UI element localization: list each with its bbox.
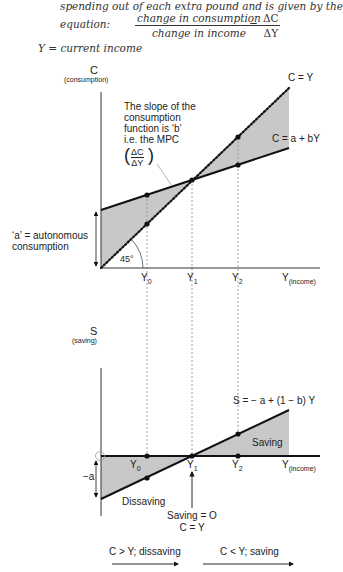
slope-fraction-paren-left: (	[124, 145, 130, 165]
s-axis-sublabel: (saving)	[72, 337, 97, 344]
s-axis-label: S	[90, 325, 97, 337]
slope-note-line: consumption	[124, 112, 196, 123]
point-y0-axis	[144, 453, 149, 458]
saving-function-label: S = − a + (1 − b) Y	[233, 395, 315, 406]
slope-fraction-num: ΔC	[131, 147, 144, 158]
c-axis-label: C	[90, 64, 98, 76]
tick-y2-upper: Y2	[232, 272, 243, 285]
tick-y1-lower: Y1	[187, 459, 198, 472]
y-income-label-lower: Y(income)	[282, 459, 316, 472]
slope-note-pointer	[157, 164, 172, 186]
slope-fraction-den: ΔY	[131, 158, 144, 168]
point-y0-consumption	[144, 192, 149, 197]
c-axis-sublabel: (consumption)	[64, 76, 108, 83]
tick-y0-upper: Y0	[141, 272, 152, 285]
slope-fraction: ΔC ΔY	[131, 147, 144, 168]
dissaving-region-label: Dissaving	[122, 496, 165, 507]
autonomous-label-line: consumption	[12, 241, 88, 252]
minus-a-label: −a	[83, 471, 94, 482]
point-y1-zero-saving	[189, 453, 194, 458]
breakeven-line: C = Y	[160, 522, 224, 534]
point-y2-consumption	[235, 162, 240, 167]
saving-region-label: Saving	[252, 437, 283, 448]
slope-fraction-paren-right: )	[148, 145, 154, 165]
slope-note-line: function is ‘b’	[124, 123, 196, 134]
breakeven-line: Saving = O	[160, 510, 224, 522]
angle-45-label: 45°	[120, 254, 134, 264]
point-y1-breakeven	[189, 177, 194, 182]
consumption-function-label: C = a + bY	[272, 133, 320, 144]
dissaving-direction-label: C > Y; dissaving	[109, 546, 181, 557]
tick-y1-upper: Y1	[187, 272, 198, 285]
slope-note-line: The slope of the	[124, 101, 196, 112]
breakeven-label: Saving = O C = Y	[160, 510, 224, 534]
point-y0-45line	[144, 221, 149, 226]
point-y2-45line	[235, 134, 240, 139]
slope-note: The slope of the consumption function is…	[124, 101, 196, 145]
saving-direction-label: C < Y; saving	[220, 546, 279, 557]
tick-y0-lower: Y0	[130, 459, 141, 472]
point-y2-saving	[235, 431, 240, 436]
line-45-label: C = Y	[288, 72, 313, 83]
tick-y2-lower: Y2	[232, 459, 243, 472]
autonomous-consumption-label: ‘a’ = autonomous consumption	[12, 230, 88, 252]
point-y0-saving	[144, 475, 149, 480]
y-income-label-upper: Y(income)	[282, 272, 316, 285]
point-y2-axis	[235, 453, 240, 458]
slope-note-line: i.e. the MPC	[124, 134, 196, 145]
autonomous-label-line: ‘a’ = autonomous	[12, 230, 88, 241]
